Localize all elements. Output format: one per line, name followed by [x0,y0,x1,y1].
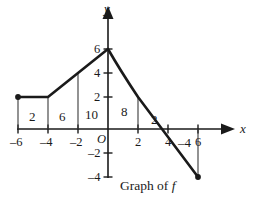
x-tick-label-pos4: 4 [165,136,171,149]
region-area-label-2: 6 [59,110,66,123]
y-tick-label-4: 4 [94,67,100,80]
figure-caption-text: Graph of [120,178,168,193]
region-area-label-1: 2 [29,110,36,123]
x-tick-label-neg4: –4 [40,136,53,149]
graph-plot-svg [0,0,258,202]
figure-caption: Graph of f [120,179,176,193]
origin-label: O [97,133,106,146]
graph-figure: y x O –6 –4 –2 2 4 6 6 4 2 –2 –4 2 6 10 … [0,0,258,202]
figure-caption-function-symbol: f [172,178,176,193]
endpoint-dot-right [195,174,201,180]
x-tick-label-pos2: 2 [135,136,141,149]
region-area-label-3: 10 [85,108,98,121]
x-tick-label-neg6: –6 [10,136,23,149]
x-axis-label: x [240,122,246,135]
x-tick-label-neg2: –2 [70,136,83,149]
region-area-label-5: 2 [151,113,158,126]
endpoint-dot-left [15,94,21,100]
y-tick-label-6: 6 [94,43,100,56]
region-area-label-6: –4 [178,136,191,149]
x-axis-arrowhead [221,124,235,135]
y-tick-label-neg2: –2 [88,147,101,160]
y-tick-label-neg4: –4 [88,171,101,184]
region-area-label-4: 8 [121,105,128,118]
x-tick-label-pos6: 6 [195,136,201,149]
y-tick-label-2: 2 [94,91,100,104]
y-axis-label: y [104,2,110,15]
